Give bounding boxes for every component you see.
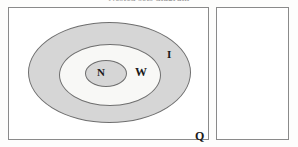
diagram-canvas: Nested sets diagram N W I Q Q — [0, 0, 298, 147]
ellipse-n — [85, 60, 127, 87]
label-n: N — [97, 67, 105, 78]
label-i: I — [167, 49, 171, 60]
set-box-q-complement: Q — [216, 7, 289, 140]
label-q: Q — [195, 130, 204, 142]
set-box-q: N W I Q — [8, 7, 209, 140]
label-w: W — [135, 66, 147, 78]
figure-title: Nested sets diagram — [0, 0, 298, 1]
